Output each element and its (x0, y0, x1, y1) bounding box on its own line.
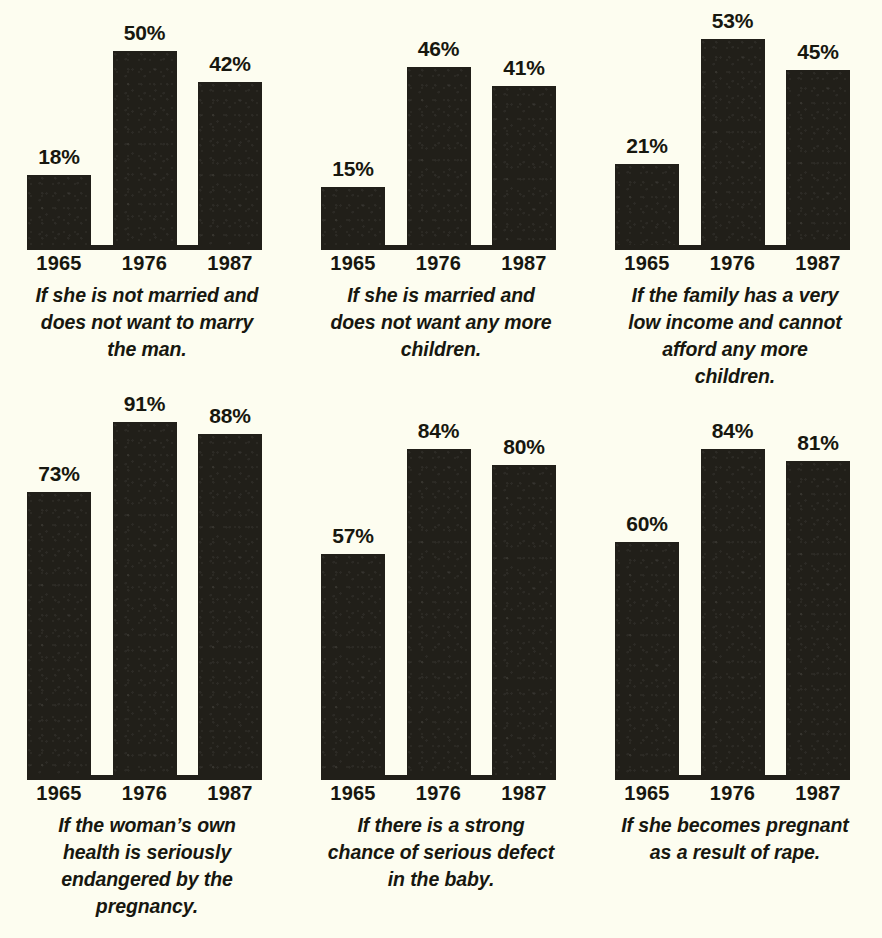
x-tick-label: 1987 (492, 782, 556, 805)
chart-panel-2: 15% 46% 41% 1965 1976 1987 (294, 0, 588, 400)
bar (701, 449, 765, 775)
caption-line: health is seriously (14, 839, 280, 866)
bar-value-label: 45% (797, 40, 838, 64)
bar (786, 461, 850, 775)
caption-line: children. (308, 336, 574, 363)
caption-line: If she becomes pregnant (602, 812, 868, 839)
panel-caption: If she is not married and does not want … (14, 282, 280, 363)
bar-group: 15% (321, 0, 385, 245)
bar-value-label: 60% (626, 512, 667, 536)
caption-line: afford any more (602, 336, 868, 363)
bar-value-label: 42% (209, 52, 250, 76)
x-tick-label: 1987 (198, 782, 262, 805)
bar-series-1: 18% 50% 42% (27, 0, 262, 245)
caption-line: low income and cannot (602, 309, 868, 336)
bar-value-label: 18% (38, 145, 79, 169)
bar-series-3: 21% 53% 45% (615, 0, 850, 245)
bar-value-label: 53% (712, 9, 753, 33)
bar (492, 86, 556, 245)
bar-group: 81% (786, 400, 850, 775)
x-tick-label: 1976 (407, 252, 471, 275)
chart-panel-3: 21% 53% 45% 1965 1976 1987 (588, 0, 882, 400)
bar (615, 164, 679, 245)
chart-panel-6: 60% 84% 81% 1965 1976 1987 (588, 400, 882, 938)
bar (786, 70, 850, 245)
bar-group: 42% (198, 0, 262, 245)
bar (407, 449, 471, 775)
x-tick-label: 1976 (701, 252, 765, 275)
x-tick-label: 1976 (113, 782, 177, 805)
x-tick-label: 1976 (701, 782, 765, 805)
caption-line: chance of serious defect (308, 839, 574, 866)
chart-grid: 18% 50% 42% 1965 1976 1987 (0, 0, 882, 938)
bar-group: 50% (113, 0, 177, 245)
bar-series-5: 57% 84% 80% (321, 400, 556, 775)
bar-group: 73% (27, 400, 91, 775)
x-tick-label: 1987 (198, 252, 262, 275)
bar-value-label: 88% (209, 404, 250, 428)
bar-value-label: 15% (332, 157, 373, 181)
x-axis-tick-labels: 1965 1976 1987 (27, 252, 262, 275)
panel-caption: If the woman’s own health is seriously e… (14, 812, 280, 920)
x-axis-tick-labels: 1965 1976 1987 (321, 252, 556, 275)
panel-caption: If the family has a very low income and … (602, 282, 868, 390)
bar-value-label: 84% (418, 419, 459, 443)
x-tick-label: 1987 (492, 252, 556, 275)
bar-group: 80% (492, 400, 556, 775)
figure-root: 18% 50% 42% 1965 1976 1987 (0, 0, 882, 938)
x-tick-label: 1965 (321, 782, 385, 805)
caption-line: children. (602, 363, 868, 390)
bar-series-4: 73% 91% 88% (27, 400, 262, 775)
bar-group: 57% (321, 400, 385, 775)
chart-panel-5: 57% 84% 80% 1965 1976 1987 (294, 400, 588, 938)
caption-line: in the baby. (308, 866, 574, 893)
bar-group: 60% (615, 400, 679, 775)
x-tick-label: 1976 (407, 782, 471, 805)
x-tick-label: 1976 (113, 252, 177, 275)
bar-group: 84% (407, 400, 471, 775)
x-axis-tick-labels: 1965 1976 1987 (27, 782, 262, 805)
bar-value-label: 73% (38, 462, 79, 486)
bar-group: 88% (198, 400, 262, 775)
bar (407, 67, 471, 245)
plot-area-6: 60% 84% 81% (588, 400, 882, 780)
bar-group: 91% (113, 400, 177, 775)
bar-series-2: 15% 46% 41% (321, 0, 556, 245)
x-axis-line (615, 775, 850, 780)
bar-group: 84% (701, 400, 765, 775)
chart-panel-4: 73% 91% 88% 1965 1976 1987 (0, 400, 294, 938)
plot-area-3: 21% 53% 45% (588, 0, 882, 250)
bar-value-label: 91% (124, 392, 165, 416)
bar-group: 21% (615, 0, 679, 245)
bar (492, 465, 556, 775)
bar-value-label: 41% (503, 56, 544, 80)
bar (321, 187, 385, 245)
x-tick-label: 1965 (27, 252, 91, 275)
x-axis-line (321, 775, 556, 780)
panel-caption: If there is a strong chance of serious d… (308, 812, 574, 893)
bar-value-label: 57% (332, 524, 373, 548)
caption-line: If she is married and (308, 282, 574, 309)
bar (198, 434, 262, 775)
bar (27, 492, 91, 775)
caption-line: the man. (14, 336, 280, 363)
caption-line: pregnancy. (14, 893, 280, 920)
x-axis-tick-labels: 1965 1976 1987 (615, 782, 850, 805)
bar-group: 18% (27, 0, 91, 245)
plot-area-4: 73% 91% 88% (0, 400, 294, 780)
bar (113, 51, 177, 245)
x-tick-label: 1987 (786, 782, 850, 805)
x-tick-label: 1987 (786, 252, 850, 275)
bar-group: 45% (786, 0, 850, 245)
caption-line: If she is not married and (14, 282, 280, 309)
caption-line: If the family has a very (602, 282, 868, 309)
chart-panel-1: 18% 50% 42% 1965 1976 1987 (0, 0, 294, 400)
bar (321, 554, 385, 775)
x-axis-tick-labels: 1965 1976 1987 (615, 252, 850, 275)
bar-value-label: 46% (418, 37, 459, 61)
bar-group: 41% (492, 0, 556, 245)
panel-caption: If she is married and does not want any … (308, 282, 574, 363)
caption-line: If the woman’s own (14, 812, 280, 839)
bar-value-label: 84% (712, 419, 753, 443)
x-tick-label: 1965 (27, 782, 91, 805)
